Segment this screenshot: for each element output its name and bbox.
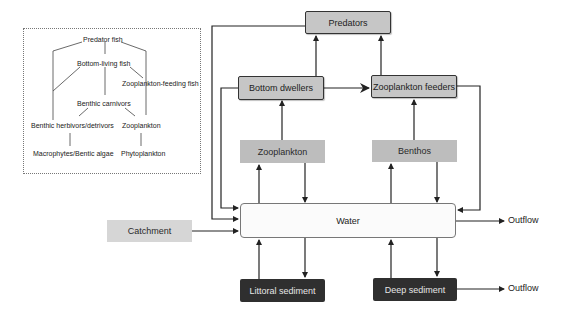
legend-bottom-living-fish: Bottom-living fish <box>77 60 130 67</box>
littoral-sediment-node: Littoral sediment <box>240 279 325 302</box>
bottom-dwellers-node: Bottom dwellers <box>238 76 324 100</box>
sediment-outflow-label: Outflow <box>508 283 539 293</box>
zooplankton-feeders-node: Zooplankton feeders <box>371 75 457 98</box>
legend-zooplankton-feeding-fish: Zooplankton-feeding fish <box>122 80 199 87</box>
deep-sediment-node: Deep sediment <box>373 278 457 301</box>
water-node: Water <box>240 203 456 238</box>
food-web-diagram: Predator fish Bottom-living fish Zooplan… <box>0 0 561 316</box>
legend-phytoplankton: Phytoplankton <box>121 150 165 157</box>
legend-benthic-carnivors: Benthic carnivors <box>77 100 131 107</box>
legend-benthic-herbivors: Benthic herbivors/detrivors <box>31 122 114 129</box>
zooplankton-node: Zooplankton <box>240 140 325 163</box>
legend-macrophytes: Macrophytes/Bentic algae <box>33 150 114 157</box>
legend-predator-fish: Predator fish <box>83 36 123 43</box>
catchment-node: Catchment <box>107 220 192 242</box>
legend-zooplankton: Zooplankton <box>122 122 161 129</box>
benthos-node: Benthos <box>372 140 457 162</box>
predators-node: Predators <box>305 11 391 34</box>
water-outflow-label: Outflow <box>508 215 539 225</box>
